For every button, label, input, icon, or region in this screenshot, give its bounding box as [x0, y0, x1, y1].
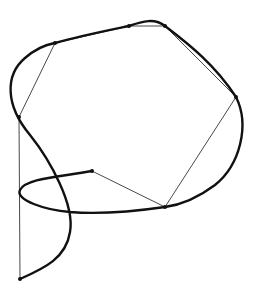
control-point-4 — [163, 24, 167, 28]
control-polygon — [19, 26, 236, 279]
control-point-3 — [127, 24, 131, 28]
control-point-5 — [234, 95, 238, 99]
diagram-canvas — [0, 0, 254, 296]
control-point-7 — [90, 169, 94, 173]
control-point-1 — [17, 115, 21, 119]
control-points — [17, 24, 238, 281]
control-point-0 — [18, 277, 22, 281]
spline-curve — [11, 21, 243, 279]
control-point-6 — [163, 205, 167, 209]
control-point-2 — [53, 41, 57, 45]
